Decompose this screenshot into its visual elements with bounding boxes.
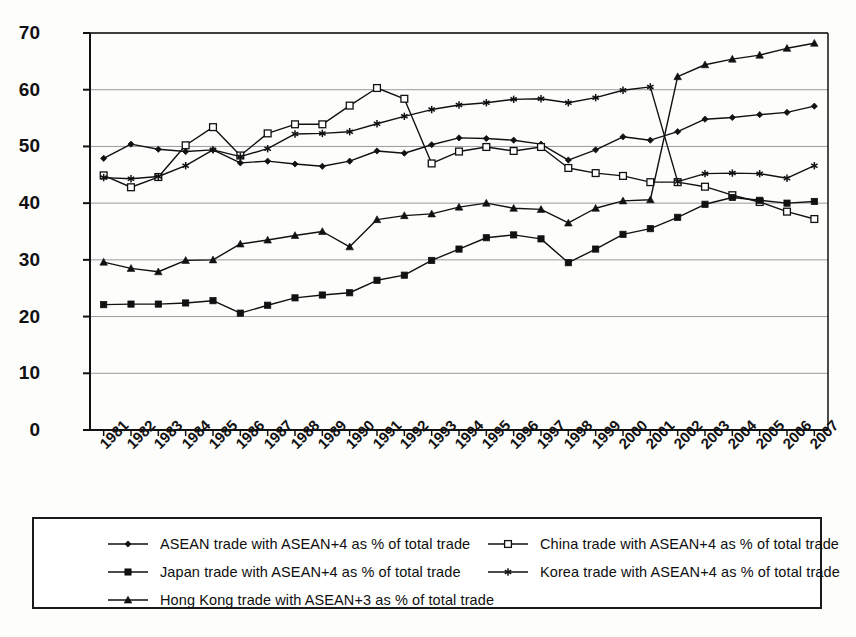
series-japan	[101, 194, 818, 316]
data-point	[811, 39, 819, 46]
series-asean	[101, 103, 818, 169]
data-point	[155, 301, 161, 307]
data-point	[128, 301, 134, 307]
data-point	[101, 302, 107, 308]
legend-entry[interactable]: ASEAN trade with ASEAN+4 as % of total t…	[106, 533, 470, 555]
data-point	[100, 258, 108, 265]
data-point	[620, 231, 626, 237]
data-point	[182, 142, 189, 149]
data-point	[428, 160, 435, 167]
data-point	[538, 144, 545, 151]
legend-grid: ASEAN trade with ASEAN+4 as % of total t…	[34, 519, 820, 607]
data-point	[347, 290, 353, 296]
data-point	[784, 109, 790, 115]
data-point	[620, 134, 626, 140]
data-point	[729, 114, 735, 120]
y-tick-label: 0	[6, 420, 40, 439]
legend-entry[interactable]: Korea trade with ASEAN+4 as % of total t…	[486, 561, 840, 583]
data-point	[592, 170, 599, 177]
data-point	[128, 184, 135, 191]
data-point	[647, 137, 653, 143]
data-point	[374, 277, 380, 283]
data-point	[401, 272, 407, 278]
series-line	[104, 87, 815, 182]
legend-point	[125, 569, 131, 575]
data-point	[374, 148, 380, 154]
data-point	[101, 155, 107, 161]
data-point	[510, 148, 517, 155]
data-point	[183, 148, 189, 154]
data-point	[565, 260, 571, 266]
y-tick-label: 50	[6, 136, 40, 155]
series-line	[104, 197, 815, 313]
legend-entry[interactable]: Hong Kong trade with ASEAN+3 as % of tot…	[106, 589, 494, 611]
legend-marker-filled-square-icon	[106, 565, 150, 579]
legend-marker-asterisk-icon	[486, 565, 530, 579]
data-point	[647, 226, 653, 232]
data-point	[292, 161, 298, 167]
legend-point	[125, 541, 131, 547]
data-point	[456, 148, 463, 155]
legend-label: China trade with ASEAN+4 as % of total t…	[540, 536, 839, 552]
data-point	[757, 197, 763, 203]
data-point	[210, 298, 216, 304]
y-tick-label: 70	[6, 23, 40, 42]
data-point	[565, 157, 571, 163]
legend-point	[505, 541, 512, 548]
y-tick-label: 20	[6, 307, 40, 326]
data-point	[319, 121, 326, 128]
data-point	[210, 124, 217, 131]
data-point	[511, 232, 517, 238]
data-point	[784, 208, 791, 215]
data-point	[456, 246, 462, 252]
series-korea	[100, 83, 817, 185]
data-point	[483, 235, 489, 241]
y-axis-labels: 010203040506070	[0, 18, 40, 438]
data-point	[565, 219, 573, 226]
data-point	[182, 162, 188, 169]
data-point	[237, 310, 243, 316]
legend-label: Hong Kong trade with ASEAN+3 as % of tot…	[160, 592, 494, 608]
data-point	[483, 144, 490, 151]
legend-entry[interactable]: Japan trade with ASEAN+4 as % of total t…	[106, 561, 461, 583]
plot-area	[48, 18, 836, 438]
data-point	[538, 236, 544, 242]
data-point	[265, 158, 271, 164]
legend-marker-diamond-icon	[106, 537, 150, 551]
series-line	[104, 43, 815, 272]
data-point	[729, 194, 735, 200]
data-point	[401, 95, 408, 102]
data-point	[675, 214, 681, 220]
data-point	[811, 103, 817, 109]
x-axis-labels: 1981198219831984198519861987198819891990…	[48, 440, 836, 510]
chart-page: 010203040506070 198119821983198419851986…	[0, 0, 856, 637]
data-point	[237, 160, 243, 166]
data-point	[429, 257, 435, 263]
data-point	[292, 121, 299, 128]
data-point	[401, 150, 407, 156]
data-point	[319, 163, 325, 169]
data-point	[511, 137, 517, 143]
data-point	[702, 201, 708, 207]
data-point	[292, 295, 298, 301]
y-tick-label: 40	[6, 193, 40, 212]
y-tick-label: 10	[6, 363, 40, 382]
legend-label: Japan trade with ASEAN+4 as % of total t…	[160, 564, 461, 580]
data-point	[347, 158, 353, 164]
data-point	[675, 129, 681, 135]
data-point	[784, 200, 790, 206]
series-hong	[100, 39, 818, 274]
data-point	[647, 179, 654, 186]
data-point	[811, 216, 818, 223]
y-tick-label: 30	[6, 250, 40, 269]
legend-marker-open-square-icon	[486, 537, 530, 551]
data-point	[811, 162, 817, 169]
data-point	[346, 102, 353, 109]
data-point	[674, 73, 682, 80]
data-point	[565, 165, 572, 172]
data-point	[265, 302, 271, 308]
legend-entry[interactable]: China trade with ASEAN+4 as % of total t…	[486, 533, 839, 555]
data-point	[757, 112, 763, 118]
data-point	[702, 116, 708, 122]
data-point	[811, 198, 817, 204]
